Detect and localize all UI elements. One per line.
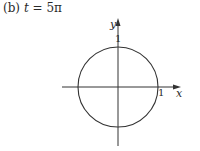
y-axis-arrow-icon	[116, 18, 121, 26]
y-axis-label: y	[109, 18, 117, 31]
x-axis-label: x	[176, 87, 183, 100]
x-tick-label: 1	[158, 87, 164, 98]
unit-circle-diagram: y 1 1 x	[0, 0, 200, 151]
y-tick-label: 1	[115, 33, 121, 44]
